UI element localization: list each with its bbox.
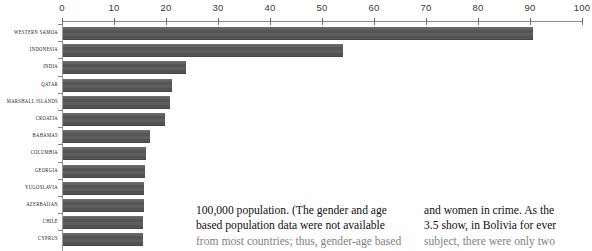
y-axis-tick (58, 24, 63, 25)
x-axis-tick-label: 100 (565, 2, 592, 13)
bar (63, 44, 343, 57)
y-axis-tick (58, 58, 63, 59)
category-label: YUGOSLAVIA (0, 184, 58, 190)
category-label-wrap: CHILE (0, 216, 58, 227)
bar (63, 79, 172, 92)
bar (63, 113, 165, 126)
y-axis-tick (58, 196, 63, 197)
bar (63, 182, 144, 195)
category-label-wrap: INDIA (0, 61, 58, 72)
bar (63, 96, 170, 109)
category-label-wrap: COLUMBIA (0, 147, 58, 158)
bar-row: INDONESIA (0, 44, 592, 55)
bar (63, 216, 143, 229)
bar-row: WESTERN SAMOA (0, 27, 592, 38)
x-axis-tick-label: 90 (513, 2, 547, 13)
bar (63, 130, 150, 143)
category-label: CYPRUS (0, 236, 58, 242)
x-axis-tick (582, 18, 583, 25)
y-axis-tick (58, 41, 63, 42)
x-axis-tick-label: 30 (201, 2, 235, 13)
x-axis-tick (270, 18, 271, 25)
bar (63, 147, 146, 160)
y-axis-tick (58, 144, 63, 145)
x-axis-tick-label: 20 (149, 2, 183, 13)
x-axis-tick (322, 18, 323, 25)
body-text-left-column: 100,000 population. (The gender and age … (196, 203, 408, 251)
category-label-wrap: YUGOSLAVIA (0, 182, 58, 193)
bar-row: YUGOSLAVIA (0, 182, 592, 193)
bar-row: QATAR (0, 79, 592, 90)
bar (63, 27, 533, 40)
x-axis-tick-label: 50 (305, 2, 339, 13)
category-label: MARSHALL ISLANDS (0, 98, 58, 104)
y-axis-tick (58, 230, 63, 231)
x-axis-tick (530, 18, 531, 25)
y-axis-tick (58, 213, 63, 214)
y-axis-tick (58, 179, 63, 180)
bar-row: BAHAMAS (0, 130, 592, 141)
bar (63, 233, 143, 246)
x-axis-tick (478, 18, 479, 25)
bar-row: CROATIA (0, 113, 592, 124)
bar-row: GEORGIA (0, 165, 592, 176)
category-label: BAHAMAS (0, 133, 58, 139)
y-axis-tick (58, 162, 63, 163)
text-line: subject, there were only two (424, 234, 592, 249)
category-label-wrap: BAHAMAS (0, 130, 58, 141)
text-line: and women in crime. As the (424, 203, 592, 218)
text-line: 3.5 show, in Bolivia for ever (424, 218, 592, 233)
category-label-wrap: QATAR (0, 79, 58, 90)
category-label: AZERBAIJAN (0, 201, 58, 207)
category-label: CHILE (0, 219, 58, 225)
category-label-wrap: MARSHALL ISLANDS (0, 96, 58, 107)
category-label-wrap: WESTERN SAMOA (0, 27, 58, 38)
category-label-wrap: INDONESIA (0, 44, 58, 55)
category-label: WESTERN SAMOA (0, 29, 58, 35)
x-axis-tick (166, 18, 167, 25)
x-axis-tick-label: 70 (409, 2, 443, 13)
y-axis-tick (58, 110, 63, 111)
y-axis-tick (58, 93, 63, 94)
category-label-wrap: CYPRUS (0, 233, 58, 244)
category-label: INDONESIA (0, 47, 58, 53)
body-text-right-column: and women in crime. As the 3.5 show, in … (424, 203, 592, 251)
bar-row: INDIA (0, 61, 592, 72)
category-label-wrap: AZERBAIJAN (0, 199, 58, 210)
category-label: GEORGIA (0, 167, 58, 173)
bar-row: COLUMBIA (0, 147, 592, 158)
category-label: QATAR (0, 81, 58, 87)
x-axis-tick (114, 18, 115, 25)
x-axis-tick-label: 10 (97, 2, 131, 13)
category-label: CROATIA (0, 115, 58, 121)
text-line: from most countries; thus, gender-age ba… (196, 234, 408, 249)
bar (63, 61, 186, 74)
bar-row: MARSHALL ISLANDS (0, 96, 592, 107)
book-page: 0102030405060708090100 WESTERN SAMOAINDO… (0, 0, 592, 251)
text-line: based population data were not available (196, 218, 408, 233)
category-label: COLUMBIA (0, 150, 58, 156)
category-label-wrap: CROATIA (0, 113, 58, 124)
x-axis-tick-label: 0 (45, 2, 79, 13)
x-axis-tick-label: 60 (357, 2, 391, 13)
x-axis-tick (374, 18, 375, 25)
category-label-wrap: GEORGIA (0, 165, 58, 176)
y-axis-tick (58, 76, 63, 77)
bar (63, 199, 144, 212)
category-label: INDIA (0, 64, 58, 70)
bar (63, 165, 145, 178)
y-axis-tick (58, 127, 63, 128)
x-axis-tick (426, 18, 427, 25)
x-axis-tick-label: 40 (253, 2, 287, 13)
x-axis-tick-label: 80 (461, 2, 495, 13)
text-line: 100,000 population. (The gender and age (196, 203, 408, 218)
x-axis-tick (218, 18, 219, 25)
